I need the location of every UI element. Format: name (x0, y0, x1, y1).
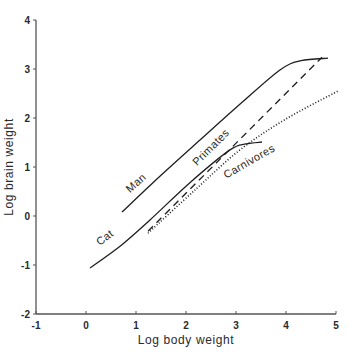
x-tick-label: 4 (283, 320, 289, 331)
x-tick-label: 5 (333, 320, 339, 331)
y-tick-label: 1 (24, 162, 30, 173)
axes: -2-101234-1012345 (21, 15, 339, 331)
x-axis-label: Log body weight (138, 333, 234, 347)
x-tick-label: 1 (133, 320, 139, 331)
y-tick-label: 0 (24, 211, 30, 222)
y-tick-label: 4 (24, 15, 30, 26)
y-tick-label: -1 (21, 260, 30, 271)
x-tick-label: -1 (32, 320, 41, 331)
x-tick-label: 0 (83, 320, 89, 331)
plot-area (90, 57, 338, 268)
y-axis-label: Log brain weight (2, 118, 16, 216)
primates-curve (148, 57, 322, 231)
y-tick-label: 3 (24, 64, 30, 75)
y-tick-label: 2 (24, 113, 30, 124)
x-tick-label: 2 (183, 320, 189, 331)
x-tick-label: 3 (233, 320, 239, 331)
carnivores-label: Carnivores (221, 142, 277, 181)
cat-label: Cat (94, 227, 116, 248)
y-tick-label: -2 (21, 309, 30, 320)
brain-body-weight-chart: -2-101234-1012345 ManCatPrimatesCarnivor… (0, 0, 362, 356)
